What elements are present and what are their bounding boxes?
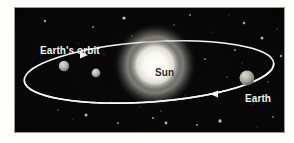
planet-a — [59, 61, 69, 71]
earth-disc — [240, 71, 255, 86]
space-scene-panel: Earth's orbit Sun Earth — [14, 7, 285, 133]
orbit-diagram-svg — [14, 7, 285, 133]
earth-label: Earth — [245, 93, 271, 104]
earth-body-group — [240, 71, 255, 86]
sun-disc — [128, 38, 182, 92]
planet-b — [92, 69, 101, 78]
sun-label: Sun — [155, 67, 174, 78]
sun-body-group — [113, 23, 197, 107]
orbit-label: Earth's orbit — [40, 45, 100, 56]
figure-root: Earth's orbit Sun Earth — [0, 0, 294, 143]
